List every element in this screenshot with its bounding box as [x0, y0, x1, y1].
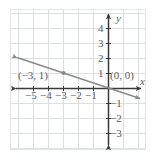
x-tick-label-minus-1: −1 — [85, 90, 97, 101]
data-point-marker — [61, 71, 65, 75]
x-tick-label-minus-2: −2 — [70, 90, 82, 101]
y-tick-label-minus-1: −1 — [110, 98, 122, 109]
y-axis-label: y — [116, 13, 121, 24]
y-tick-label-3: 3 — [98, 38, 104, 49]
y-tick-label-1: 1 — [98, 68, 104, 79]
x-tick-label-minus-4: −4 — [40, 90, 52, 101]
x-tick-label-minus-5: −5 — [25, 90, 37, 101]
y-tick-label-4: 4 — [98, 23, 104, 34]
point-label-minus3-1: (−3, 1) — [18, 70, 48, 81]
x-tick-label-minus-3: −3 — [55, 90, 67, 101]
point-label-origin: (0, 0) — [110, 70, 134, 81]
y-tick-label-2: 2 — [98, 53, 104, 64]
y-tick-label-minus-3: −3 — [110, 128, 122, 139]
x-axis-label: x — [140, 76, 145, 87]
coordinate-plane-figure: y x 4 3 2 1 −1 −2 −3 −5 −4 −3 −2 −1 (−3,… — [0, 0, 156, 159]
y-tick-label-minus-2: −2 — [110, 113, 122, 124]
